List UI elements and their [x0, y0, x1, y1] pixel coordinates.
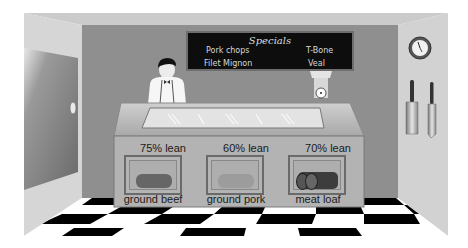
- lean-label-ground-beef: 75% lean: [123, 142, 203, 154]
- lean-label-ground-pork: 60% lean: [206, 142, 286, 154]
- freezer-door: [24, 48, 78, 190]
- product-name-meat-loaf: meat loaf: [273, 193, 363, 205]
- specials-title: Specials: [188, 35, 352, 46]
- tray-meat-loaf[interactable]: [288, 155, 346, 195]
- special-item: T-Bone: [306, 46, 333, 55]
- special-item: Filet Mignon: [204, 59, 252, 68]
- product-name-ground-beef: ground beef: [108, 193, 198, 205]
- product-name-ground-pork: ground pork: [191, 193, 281, 205]
- tray-ground-pork[interactable]: [206, 155, 264, 195]
- lean-label-meat-loaf: 70% lean: [288, 142, 368, 154]
- ground-pork-meat: [218, 174, 254, 188]
- special-item: Veal: [308, 59, 325, 68]
- ground-beef-meat: [136, 174, 172, 188]
- butcher-shop-scene: Specials Pork chops T-Bone Filet Mignon …: [0, 0, 468, 248]
- specials-board: Specials Pork chops T-Bone Filet Mignon …: [186, 31, 354, 71]
- tray-ground-beef[interactable]: [124, 155, 182, 195]
- special-item: Pork chops: [206, 46, 250, 55]
